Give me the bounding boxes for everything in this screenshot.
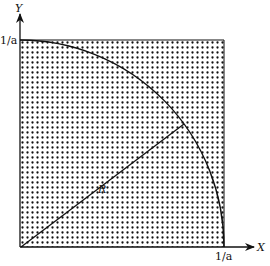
y-axis-label: Y bbox=[15, 2, 24, 15]
x-tick-label: 1/a bbox=[215, 250, 233, 263]
diagram-canvas: Y X 1/a 1/a R bbox=[0, 0, 270, 266]
dotted-square bbox=[20, 40, 224, 247]
y-tick-label: 1/a bbox=[0, 34, 18, 47]
x-axis-label: X bbox=[256, 241, 266, 254]
radius-label: R bbox=[97, 183, 106, 196]
